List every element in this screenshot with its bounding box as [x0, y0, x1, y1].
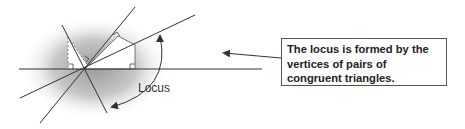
locus-label: Locus: [138, 81, 170, 95]
callout-text: The locus is formed by the vertices of p…: [287, 43, 429, 84]
locus-arc-arrowhead-top: [156, 34, 164, 42]
callout-pointer: [224, 53, 281, 58]
callout-box: The locus is formed by the vertices of p…: [281, 38, 447, 86]
